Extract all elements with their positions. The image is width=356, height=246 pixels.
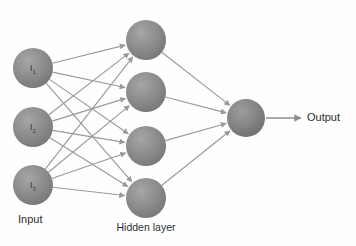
network-canvas: I1I2I3 Input Hidden layer Output xyxy=(0,0,356,246)
node-i3 xyxy=(13,165,53,205)
edge-i1-to-h1 xyxy=(52,45,125,63)
node-h3 xyxy=(126,126,166,166)
output-caption: Output xyxy=(307,111,340,123)
hidden-layer-caption: Hidden layer xyxy=(117,221,176,233)
edge-i1-to-h2 xyxy=(53,72,125,87)
node-h1 xyxy=(126,20,166,60)
edge-h1-to-o1 xyxy=(162,52,230,105)
input-nodes-group: I1I2I3 xyxy=(13,48,53,205)
node-i1 xyxy=(13,48,53,88)
edge-h2-to-o1 xyxy=(165,97,226,113)
edge-i3-to-h4 xyxy=(53,187,125,195)
edge-i3-to-h3 xyxy=(52,153,126,178)
edge-i1-to-h4 xyxy=(46,83,132,182)
hidden-nodes-group xyxy=(126,20,166,218)
edge-i2-to-h1 xyxy=(49,53,129,115)
input-layer-caption: Input xyxy=(18,213,42,225)
node-h2 xyxy=(126,72,166,112)
edge-h3-to-o1 xyxy=(165,124,226,141)
node-o1 xyxy=(227,99,265,137)
node-h4 xyxy=(126,178,166,218)
edge-i1-to-h3 xyxy=(49,79,128,133)
node-i2 xyxy=(13,107,53,147)
output-nodes-group xyxy=(227,99,265,137)
edges-hidden-to-output xyxy=(162,52,230,185)
edges-input-to-hidden xyxy=(45,45,132,195)
neural-network-diagram: I1I2I3 Input Hidden layer Output xyxy=(0,0,356,246)
